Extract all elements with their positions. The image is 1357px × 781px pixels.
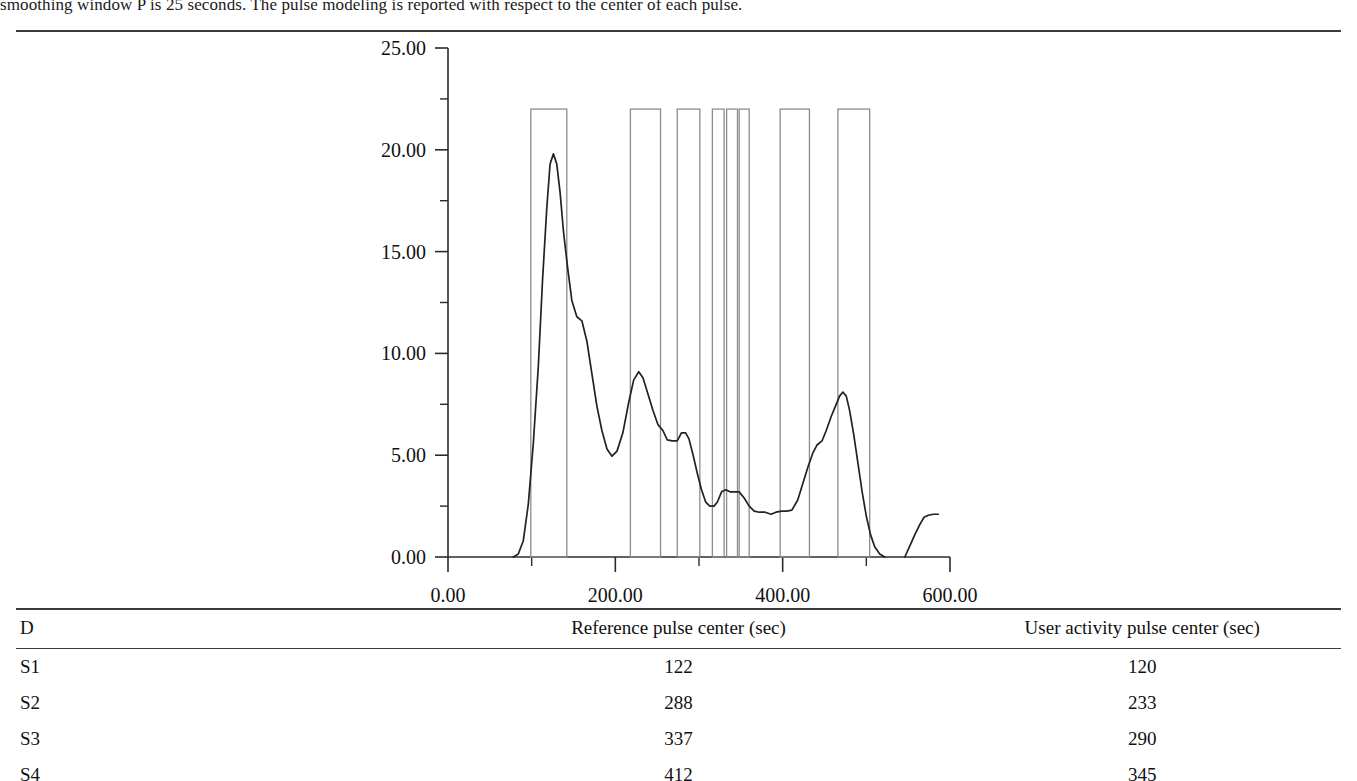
density-curve-group xyxy=(513,154,938,557)
table-header-row: D Reference pulse center (sec) User acti… xyxy=(16,609,1341,649)
density-curve xyxy=(513,154,884,557)
table-cell-user: 120 xyxy=(944,649,1342,686)
reference-pulse-box xyxy=(712,109,724,557)
y-axis-tick-label: 10.00 xyxy=(381,342,426,364)
reference-pulse-box xyxy=(780,109,809,557)
y-axis-tick-label: 5.00 xyxy=(391,444,426,466)
table-row: S1122120 xyxy=(16,649,1341,686)
figure-pulse-chart: 0.005.0010.0015.0020.0025.000.00200.0040… xyxy=(0,34,1357,609)
reference-pulse-box xyxy=(739,109,749,557)
table-header: D Reference pulse center (sec) User acti… xyxy=(16,609,1341,649)
y-axis-tick-label: 20.00 xyxy=(381,139,426,161)
y-axis-tick-label: 25.00 xyxy=(381,37,426,59)
x-axis-tick-label: 400.00 xyxy=(755,584,810,606)
reference-pulse-box xyxy=(630,109,660,557)
x-axis-tick-label: 0.00 xyxy=(431,584,466,606)
x-axis-tick-label: 200.00 xyxy=(588,584,643,606)
table-cell-id: S3 xyxy=(16,721,414,757)
table-body: S1122120S2288233S3337290S4412345 xyxy=(16,649,1341,781)
table-cell-ref: 337 xyxy=(414,721,944,757)
table-row: S3337290 xyxy=(16,721,1341,757)
table-cell-ref: 412 xyxy=(414,757,944,781)
column-header-reference: Reference pulse center (sec) xyxy=(414,609,944,649)
body-paragraph: smoothing window P is 25 seconds. The pu… xyxy=(0,0,1357,16)
table-cell-ref: 288 xyxy=(414,685,944,721)
table-row: S4412345 xyxy=(16,757,1341,781)
density-curve xyxy=(905,514,938,557)
reference-pulse-box xyxy=(838,109,870,557)
table-cell-user: 233 xyxy=(944,685,1342,721)
y-axis-tick-label: 15.00 xyxy=(381,241,426,263)
y-axis-tick-label: 0.00 xyxy=(391,546,426,568)
pulse-center-table: D Reference pulse center (sec) User acti… xyxy=(16,608,1341,781)
reference-pulse-box xyxy=(677,109,700,557)
table-row: S2288233 xyxy=(16,685,1341,721)
horizontal-rule-top xyxy=(16,30,1341,32)
table-cell-id: S1 xyxy=(16,649,414,686)
table-cell-ref: 122 xyxy=(414,649,944,686)
table-cell-id: S2 xyxy=(16,685,414,721)
chart-canvas: 0.005.0010.0015.0020.0025.000.00200.0040… xyxy=(0,34,1357,609)
reference-pulse-group xyxy=(531,109,870,557)
table-cell-user: 345 xyxy=(944,757,1342,781)
pulse-center-table-wrap: D Reference pulse center (sec) User acti… xyxy=(16,608,1341,781)
column-header-user: User activity pulse center (sec) xyxy=(944,609,1342,649)
reference-pulse-box xyxy=(727,109,738,557)
column-header-id: D xyxy=(16,609,414,649)
table-cell-user: 290 xyxy=(944,721,1342,757)
x-axis-tick-label: 600.00 xyxy=(923,584,978,606)
table-cell-id: S4 xyxy=(16,757,414,781)
